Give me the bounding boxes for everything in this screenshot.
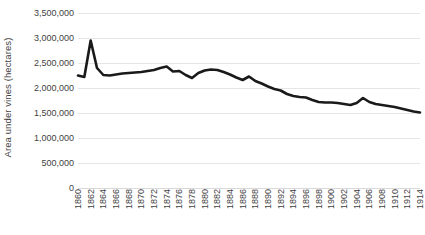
x-tick-label-text: 1902 xyxy=(340,189,349,209)
x-tick-label: 1870 xyxy=(136,189,146,229)
x-tick-label-text: 1862 xyxy=(86,189,95,209)
y-axis-title-label: Area under vines (hectares) xyxy=(3,38,14,158)
x-tick-label-text: 1876 xyxy=(175,189,184,209)
x-tick-label: 1886 xyxy=(238,189,248,229)
x-tick-label: 1884 xyxy=(225,189,235,229)
x-tick-label-text: 1896 xyxy=(302,189,311,209)
x-tick-label-text: 1914 xyxy=(416,189,425,209)
y-tick-label: 1,500,000 xyxy=(34,109,74,118)
x-tick-label: 1874 xyxy=(162,189,172,229)
y-tick-label: 3,000,000 xyxy=(34,34,74,43)
x-tick-label: 1890 xyxy=(263,189,273,229)
x-tick-label-text: 1894 xyxy=(289,189,298,209)
plot-area xyxy=(78,13,420,188)
x-tick-label: 1864 xyxy=(98,189,108,229)
x-tick-label: 1892 xyxy=(276,189,286,229)
x-tick-label-text: 1910 xyxy=(390,189,399,209)
x-tick-label: 1896 xyxy=(301,189,311,229)
x-tick-label: 1912 xyxy=(402,189,412,229)
x-tick-label: 1902 xyxy=(339,189,349,229)
x-tick-label-text: 1886 xyxy=(238,189,247,209)
x-tick-label-text: 1878 xyxy=(188,189,197,209)
x-tick-label-text: 1906 xyxy=(365,189,374,209)
x-tick-label-text: 1870 xyxy=(137,189,146,209)
x-tick-label: 1906 xyxy=(364,189,374,229)
series-line-area-under-vines xyxy=(78,13,420,188)
x-tick-label-text: 1892 xyxy=(276,189,285,209)
y-tick-label: 1,000,000 xyxy=(34,134,74,143)
y-axis-title: Area under vines (hectares) xyxy=(0,0,16,195)
y-tick-label: 500,000 xyxy=(41,159,74,168)
x-tick-label-text: 1860 xyxy=(74,189,83,209)
x-tick-label-text: 1912 xyxy=(403,189,412,209)
x-tick-label-text: 1864 xyxy=(99,189,108,209)
x-tick-label-text: 1890 xyxy=(264,189,273,209)
x-tick-label-text: 1884 xyxy=(226,189,235,209)
x-tick-label-text: 1866 xyxy=(112,189,121,209)
x-tick-label: 1904 xyxy=(352,189,362,229)
x-tick-label: 1882 xyxy=(212,189,222,229)
x-tick-label: 1898 xyxy=(314,189,324,229)
x-tick-label: 1872 xyxy=(149,189,159,229)
x-tick-label: 1888 xyxy=(250,189,260,229)
x-tick-label-text: 1900 xyxy=(327,189,336,209)
x-tick-label-text: 1882 xyxy=(213,189,222,209)
y-axis-tick-labels: 0500,0001,000,0001,500,0002,000,0002,500… xyxy=(16,0,76,195)
x-tick-label: 1868 xyxy=(124,189,134,229)
x-tick-label: 1880 xyxy=(200,189,210,229)
x-tick-label: 1862 xyxy=(86,189,96,229)
x-tick-label-text: 1888 xyxy=(251,189,260,209)
x-tick-label-text: 1898 xyxy=(314,189,323,209)
y-tick-label: 2,000,000 xyxy=(34,84,74,93)
x-tick-label: 1900 xyxy=(326,189,336,229)
x-tick-label: 1878 xyxy=(187,189,197,229)
y-tick-label: 3,500,000 xyxy=(34,9,74,18)
x-tick-label: 1860 xyxy=(73,189,83,229)
x-tick-label-text: 1880 xyxy=(200,189,209,209)
x-tick-label: 1908 xyxy=(377,189,387,229)
series-polyline xyxy=(78,41,420,113)
x-tick-label: 1876 xyxy=(174,189,184,229)
x-tick-label-text: 1872 xyxy=(150,189,159,209)
x-tick-label-text: 1904 xyxy=(352,189,361,209)
x-axis-tick-labels: 1860186218641866186818701872187418761878… xyxy=(78,189,420,235)
x-tick-label: 1866 xyxy=(111,189,121,229)
x-tick-label-text: 1874 xyxy=(162,189,171,209)
x-tick-label-text: 1868 xyxy=(124,189,133,209)
x-tick-label-text: 1908 xyxy=(378,189,387,209)
x-tick-label: 1894 xyxy=(288,189,298,229)
x-tick-label: 1914 xyxy=(415,189,425,229)
y-tick-label: 2,500,000 xyxy=(34,59,74,68)
x-tick-label: 1910 xyxy=(390,189,400,229)
